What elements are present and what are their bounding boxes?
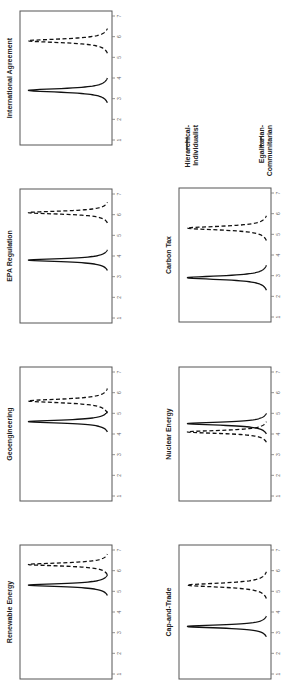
panel-carbon-tax: 1234567Carbon Tax <box>165 188 281 322</box>
tick-label: 1 <box>116 494 122 497</box>
panel-frame <box>179 188 271 322</box>
tick-label: 7 <box>275 370 281 373</box>
panel-geoengineering: 1234567Geoengineering <box>6 367 122 501</box>
panel-title: Nuclear Energy <box>165 408 173 459</box>
panel-frame <box>179 367 271 501</box>
tick-label: 3 <box>275 453 281 456</box>
tick-label: 6 <box>116 213 122 216</box>
legend: Hierarchical-IndividualistEgalitarian-Co… <box>184 124 273 176</box>
tick-label: 7 <box>116 192 122 195</box>
tick-label: 7 <box>116 14 122 17</box>
tick-label: 3 <box>275 631 281 634</box>
panel-title: Renewable Energy <box>6 581 14 643</box>
tick-label: 4 <box>275 432 281 435</box>
series-egalitarian-communitarian <box>187 572 266 599</box>
series-egalitarian-communitarian <box>187 216 266 241</box>
tick-label: 2 <box>275 652 281 655</box>
series-hierarchical-individualist <box>187 265 266 290</box>
tick-label: 5 <box>116 590 122 593</box>
series-egalitarian-communitarian <box>28 554 107 575</box>
panel-title: International Agreement <box>6 37 14 118</box>
tick-label: 1 <box>275 315 281 318</box>
tick-label: 2 <box>116 296 122 299</box>
legend-label: Hierarchical- <box>184 124 191 167</box>
tick-label: 4 <box>116 610 122 613</box>
tick-label: 4 <box>275 610 281 613</box>
tick-label: 6 <box>275 569 281 572</box>
series-hierarchical-individualist <box>187 616 266 637</box>
tick-label: 2 <box>275 295 281 298</box>
tick-label: 3 <box>116 631 122 634</box>
tick-label: 4 <box>275 253 281 256</box>
panel-frame <box>20 11 112 145</box>
panel-title: Geoengineering <box>6 407 14 460</box>
tick-label: 2 <box>116 474 122 477</box>
tick-label: 7 <box>275 548 281 551</box>
series-hierarchical-individualist <box>28 250 107 271</box>
tick-label: 7 <box>275 191 281 194</box>
tick-label: 1 <box>116 672 122 675</box>
tick-label: 2 <box>116 118 122 121</box>
panel-title: EPA Regulation <box>6 230 14 282</box>
tick-label: 6 <box>116 35 122 38</box>
legend-label: Egalitarian- <box>258 124 266 163</box>
tick-label: 1 <box>275 494 281 497</box>
tick-label: 7 <box>116 548 122 551</box>
tick-label: 1 <box>116 316 122 319</box>
tick-label: 6 <box>116 569 122 572</box>
panel-international-agreement: 1234567International Agreement <box>6 11 122 145</box>
series-egalitarian-communitarian <box>28 202 107 223</box>
panel-frame <box>20 545 112 679</box>
tick-label: 1 <box>275 672 281 675</box>
tick-label: 5 <box>275 233 281 236</box>
legend-label: Individualist <box>192 124 199 166</box>
tick-label: 6 <box>116 391 122 394</box>
series-egalitarian-communitarian <box>28 389 107 414</box>
panel-nuclear-energy: 1234567Nuclear Energy <box>165 367 281 501</box>
series-hierarchical-individualist <box>28 411 107 432</box>
tick-label: 4 <box>116 432 122 435</box>
panel-title: Carbon Tax <box>165 236 172 274</box>
panel-frame <box>179 545 271 679</box>
panel-title: Cap-and-Trade <box>165 587 173 636</box>
tick-label: 4 <box>116 254 122 257</box>
tick-label: 3 <box>275 274 281 277</box>
figure: 1234567International Agreement1234567EPA… <box>0 0 304 685</box>
tick-label: 7 <box>116 370 122 373</box>
tick-label: 6 <box>275 212 281 215</box>
tick-label: 5 <box>275 412 281 415</box>
tick-label: 1 <box>116 138 122 141</box>
panel-renewable-energy: 1234567Renewable Energy <box>6 545 122 679</box>
tick-label: 2 <box>275 474 281 477</box>
panel-frame <box>20 367 112 501</box>
tick-label: 3 <box>116 453 122 456</box>
tick-label: 2 <box>116 652 122 655</box>
tick-label: 5 <box>116 412 122 415</box>
tick-label: 4 <box>116 76 122 79</box>
panel-cap-and-trade: 1234567Cap-and-Trade <box>165 545 281 679</box>
series-hierarchical-individualist <box>28 575 107 596</box>
panel-epa-regulation: 1234567EPA Regulation <box>6 189 122 323</box>
legend-label: Communitarian <box>266 125 273 176</box>
tick-label: 5 <box>116 56 122 59</box>
tick-label: 3 <box>116 97 122 100</box>
series-egalitarian-communitarian <box>28 28 107 53</box>
tick-label: 6 <box>275 391 281 394</box>
tick-label: 5 <box>275 590 281 593</box>
tick-label: 3 <box>116 275 122 278</box>
series-hierarchical-individualist <box>28 78 107 103</box>
tick-label: 5 <box>116 234 122 237</box>
